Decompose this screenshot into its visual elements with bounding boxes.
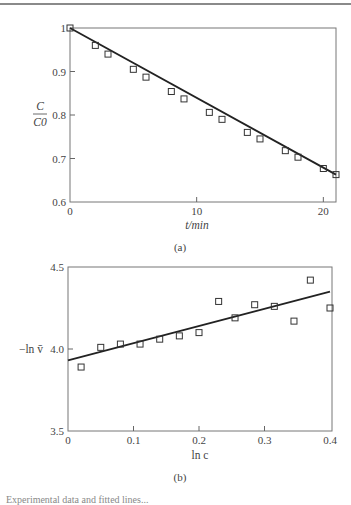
y-tick-label: 4.0	[50, 343, 64, 355]
data-point-marker	[219, 116, 225, 122]
x-tick-label: 10	[191, 205, 203, 217]
chart-b-y-ticks: 3.54.04.5	[50, 261, 73, 437]
data-point-marker	[257, 136, 263, 142]
chart-a-fit-line	[70, 28, 336, 175]
y-tick-label: 0.6	[52, 196, 66, 208]
chart-a-panel-label: (a)	[174, 241, 187, 254]
data-point-marker	[176, 333, 182, 339]
x-tick-label: 0	[65, 434, 71, 446]
data-point-marker	[244, 129, 250, 135]
data-point-marker	[216, 298, 222, 304]
x-tick-label: 20	[318, 205, 330, 217]
chart-b: 00.10.20.30.4 3.54.04.5 ln c −ln v̄ (b)	[19, 261, 337, 484]
chart-a-plot-frame	[70, 28, 336, 202]
x-tick-label: 0.2	[192, 434, 206, 446]
data-point-marker	[291, 318, 297, 324]
chart-a-x-ticks: 01020	[67, 197, 329, 217]
y-tick-label: 4.5	[50, 261, 64, 273]
chart-b-x-ticks: 00.10.20.30.4	[65, 426, 337, 446]
y-tick-label: 1	[61, 22, 67, 34]
chart-a-x-axis-label: t/min	[185, 219, 209, 231]
y-tick-label: 0.9	[52, 66, 66, 78]
chart-b-fit-line	[68, 292, 330, 361]
chart-a: 01020 0.60.70.80.91 t/min C C0 (a)	[33, 22, 339, 254]
x-tick-label: 0.3	[258, 434, 272, 446]
chart-a-y-label-denominator: C0	[33, 116, 47, 128]
data-point-marker	[252, 302, 258, 308]
figure-caption-fragment: Experimental data and fitted lines...	[6, 494, 148, 505]
data-point-marker	[98, 344, 104, 350]
data-point-marker	[196, 330, 202, 336]
data-point-marker	[168, 89, 174, 95]
data-point-marker	[307, 277, 313, 283]
chart-b-panel-label: (b)	[174, 471, 187, 484]
data-point-marker	[206, 109, 212, 115]
y-tick-label: 0.7	[52, 153, 66, 165]
data-point-marker	[78, 364, 84, 370]
chart-a-y-axis-label: C C0	[33, 100, 47, 128]
data-point-marker	[130, 66, 136, 72]
chart-a-y-label-numerator: C	[36, 100, 44, 112]
chart-a-y-ticks: 0.60.70.80.91	[52, 22, 75, 208]
chart-b-y-axis-label: −ln v̄	[19, 343, 43, 355]
data-point-marker	[105, 51, 111, 57]
chart-b-x-axis-label: ln c	[192, 449, 209, 461]
data-point-marker	[143, 74, 149, 80]
x-tick-label: 0.4	[323, 434, 337, 446]
x-tick-label: 0	[67, 205, 73, 217]
chart-b-plot-frame	[68, 267, 332, 431]
y-tick-label: 3.5	[50, 425, 64, 437]
y-tick-label: 0.8	[52, 109, 66, 121]
x-tick-label: 0.1	[127, 434, 141, 446]
data-point-marker	[181, 96, 187, 102]
